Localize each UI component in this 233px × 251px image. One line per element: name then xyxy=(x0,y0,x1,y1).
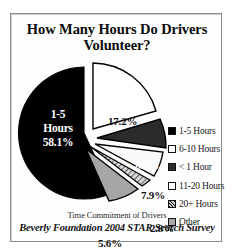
chart-subtitle: Time Commitment of Drivers xyxy=(11,210,223,220)
chart-title-line2: Volunteer? xyxy=(84,37,151,53)
chart-frame: How Many Hours Do Drivers Volunteer? xyxy=(10,13,222,242)
pie-label-1-5-hours: 1-5 Hours 58.1% xyxy=(25,107,91,149)
pie-label-1-5-hours-value: 58.1% xyxy=(43,136,74,148)
legend-item-11-20-hours[interactable]: 11-20 Hours xyxy=(168,177,233,195)
chart-title: How Many Hours Do Drivers Volunteer? xyxy=(11,21,223,53)
legend-swatch-6-10-hours xyxy=(168,145,176,153)
legend-item-6-10-hours[interactable]: 6-10 Hours xyxy=(168,140,233,158)
legend-label-1-5-hours: 1-5 Hours xyxy=(179,126,215,136)
legend-label-6-10-hours: 6-10 Hours xyxy=(179,144,220,154)
legend-label-less-than-1-hour: < 1 Hour xyxy=(179,162,212,172)
legend-swatch-11-20-hours xyxy=(168,182,176,190)
legend-swatch-less-than-1-hour xyxy=(168,163,176,171)
pie-chart-plot-area: 1-5 Hours 58.1% 17.2% 8.4% 7.9% 2.8% 5.6… xyxy=(11,59,223,209)
legend-label-11-20-hours: 11-20 Hours xyxy=(179,181,224,191)
chart-title-line1: How Many Hours Do Drivers xyxy=(27,21,207,37)
chart-source-citation: Beverly Foundation 2004 STAR Search Surv… xyxy=(11,222,223,233)
pie-label-less-than-1-hour-value: 8.4% xyxy=(135,159,159,171)
legend-label-20-plus-hours: 20+ Hours xyxy=(179,199,218,209)
legend-swatch-20-plus-hours xyxy=(168,200,176,208)
pie-label-6-10-hours-value: 17.2% xyxy=(108,115,137,127)
pie-label-other-value: 5.6% xyxy=(98,237,122,249)
pie-label-1-5-hours-cat1: 1-5 xyxy=(51,108,66,120)
legend-swatch-1-5-hours xyxy=(168,127,176,135)
legend-item-less-than-1-hour[interactable]: < 1 Hour xyxy=(168,158,233,176)
legend-item-1-5-hours[interactable]: 1-5 Hours xyxy=(168,122,233,140)
pie-label-1-5-hours-cat2: Hours xyxy=(43,122,73,134)
pie-label-11-20-hours-value: 7.9% xyxy=(141,189,165,201)
